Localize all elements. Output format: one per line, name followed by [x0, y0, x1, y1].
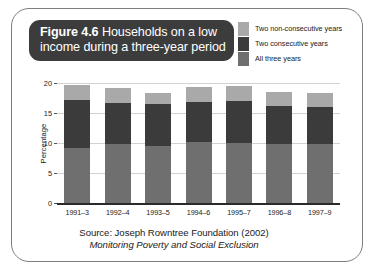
x-tick-label: 1997–9: [300, 208, 340, 217]
bar-segment: [226, 101, 252, 143]
bar-segment: [105, 88, 131, 102]
bar-segment: [266, 144, 292, 203]
bar-segment: [64, 148, 90, 203]
plot-area: 05101520 1991–31992–41993–51994–61995–71…: [57, 83, 340, 211]
bar-stack: [307, 93, 333, 203]
x-tick-label: 1991–3: [57, 208, 97, 217]
legend-item-label: Two consecutive years: [255, 39, 328, 48]
bar-stack: [266, 92, 292, 203]
figure-title-line-1: Figure 4.6 Households on a low: [40, 25, 223, 40]
source-attribution: Source: Joseph Rowntree Foundation (2002…: [12, 227, 336, 250]
bar-segment: [145, 104, 171, 146]
source-line-2: Monitoring Poverty and Social Exclusion: [12, 239, 336, 250]
x-tick-label: 1993–5: [138, 208, 178, 217]
legend-item-label: All three years: [255, 54, 301, 63]
y-tick-mark: [54, 83, 57, 84]
figure-number: 4.6: [81, 25, 98, 39]
x-tick-label: 1994–6: [178, 208, 218, 217]
figure-label: Figure: [40, 25, 78, 39]
figure-card: Figure 4.6 Households on a low income du…: [11, 8, 363, 262]
y-tick-mark: [54, 173, 57, 174]
x-tick-label: 1996–8: [259, 208, 299, 217]
bar-segment: [186, 102, 212, 142]
legend-item: Two consecutive years: [238, 36, 358, 51]
bar-segment: [226, 143, 252, 203]
y-tick-mark: [54, 143, 57, 144]
x-tick-label: 1992–4: [97, 208, 137, 217]
legend-item: All three years: [238, 51, 358, 66]
y-tick-mark: [54, 113, 57, 114]
bar-segment: [226, 86, 252, 101]
legend-swatch-icon: [238, 22, 249, 36]
y-tick-label: 20: [44, 79, 52, 88]
y-tick-label: 5: [48, 169, 52, 178]
plot-frame: 05101520: [57, 83, 340, 203]
bar-segment: [266, 92, 292, 106]
bar-segment: [105, 103, 131, 144]
legend-swatch-icon: [238, 52, 249, 66]
legend-item-label: Two non-consecutive years: [255, 24, 342, 33]
bar-segment: [145, 146, 171, 203]
legend-swatch-icon: [238, 37, 249, 51]
bar-stack: [186, 87, 212, 203]
source-line-1: Source: Joseph Rowntree Foundation (2002…: [12, 227, 336, 238]
bar-segment: [186, 87, 212, 101]
bar-segment: [307, 93, 333, 107]
y-gridline: [57, 83, 340, 84]
bar-segment: [145, 93, 171, 104]
bar-segment: [266, 106, 292, 144]
figure-title-line-2: income during a three-year period: [40, 40, 223, 55]
chart-legend: Two non-consecutive yearsTwo consecutive…: [238, 21, 358, 66]
bar-segment: [64, 85, 90, 100]
bar-stack: [105, 88, 131, 203]
bar-stack: [64, 85, 90, 203]
figure-title-text-part-1: Households on a low: [102, 25, 217, 39]
y-tick-label: 10: [44, 139, 52, 148]
bar-stack: [145, 93, 171, 203]
x-axis-baseline: [57, 203, 340, 205]
legend-item: Two non-consecutive years: [238, 21, 358, 36]
bar-segment: [186, 142, 212, 203]
x-tick-label: 1995–7: [219, 208, 259, 217]
bar-segment: [307, 107, 333, 144]
y-tick-label: 15: [44, 109, 52, 118]
bar-segment: [64, 100, 90, 148]
figure-title-badge: Figure 4.6 Households on a low income du…: [29, 20, 234, 61]
bar-stack: [226, 86, 252, 203]
bar-segment: [307, 144, 333, 203]
bar-segment: [105, 144, 131, 203]
y-tick-label: 0: [48, 199, 52, 208]
